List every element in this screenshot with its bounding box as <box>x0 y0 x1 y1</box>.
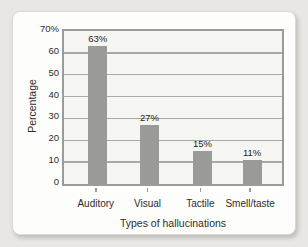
y-tick-label: 20 <box>13 132 59 144</box>
y-tick-label: 70% <box>13 23 59 35</box>
x-tick-label: Smell/taste <box>225 198 274 209</box>
axis-tick <box>249 188 251 192</box>
x-tick-label: Visual <box>134 198 161 209</box>
y-tick-label: 40 <box>13 89 59 101</box>
bar <box>243 160 262 184</box>
axis-tick <box>200 188 202 192</box>
x-tick-label: Auditory <box>77 198 114 209</box>
axis-tick <box>95 188 97 192</box>
bar <box>193 151 212 184</box>
y-tick-label: 0 <box>13 176 59 188</box>
bar <box>88 46 107 184</box>
bar-value-label: 15% <box>193 138 212 149</box>
bar-value-label: 27% <box>140 112 159 123</box>
chart-card: Percentage 63%27%15%11% Types of halluci… <box>12 11 296 235</box>
x-axis-title: Types of hallucinations <box>62 217 284 229</box>
y-tick-label: 10 <box>13 154 59 166</box>
bar <box>140 125 159 184</box>
y-tick-label: 50 <box>13 67 59 79</box>
y-tick-label: 30 <box>13 110 59 122</box>
page-background: Percentage 63%27%15%11% Types of halluci… <box>0 0 308 247</box>
y-tick-label: 60 <box>13 45 59 57</box>
bar-value-label: 11% <box>243 147 261 158</box>
axis-tick <box>147 188 149 192</box>
x-tick-label: Tactile <box>186 198 214 209</box>
plot-area: 63%27%15%11% <box>62 29 284 186</box>
bar-value-label: 63% <box>88 33 107 44</box>
